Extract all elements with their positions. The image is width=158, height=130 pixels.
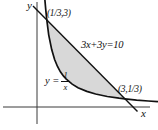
x-axis-label: x: [141, 108, 146, 119]
plot-canvas: [0, 0, 158, 130]
line-3x-plus-3y-equals-10: [33, 6, 138, 112]
math-figure: y (1/3,3) 3x+3y=10 y = 1 x (3,1/3) x: [0, 0, 158, 130]
fraction-denominator: x: [64, 82, 68, 92]
curve-equation-label: y = 1 x: [45, 71, 70, 92]
y-axis-label: y: [27, 0, 32, 11]
intersection-label-bottom: (3,1/3): [118, 85, 142, 95]
fraction-numerator: 1: [61, 71, 69, 82]
line-equation-label: 3x+3y=10: [81, 40, 123, 51]
fraction-one-over-x: 1 x: [61, 71, 69, 92]
intersection-label-top: (1/3,3): [47, 9, 71, 19]
curve-equation-lhs: y =: [45, 76, 59, 87]
